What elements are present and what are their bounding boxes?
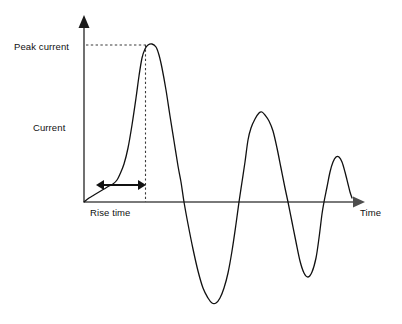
arrow-head-right-icon [138,180,146,190]
current-waveform-figure: Peak current Current Rise time Time [0,0,402,324]
arrow-head-left-icon [96,180,104,190]
up-arrow-icon [79,15,90,28]
rise-time-arrow [96,180,146,190]
peak-current-label: Peak current [14,41,69,53]
y-axis-label: Current [33,122,65,134]
right-arrow-icon [353,197,365,208]
x-axis-label: Time [360,207,381,219]
rise-time-label: Rise time [90,207,131,219]
waveform-curve [84,44,352,304]
y-axis [79,15,90,202]
